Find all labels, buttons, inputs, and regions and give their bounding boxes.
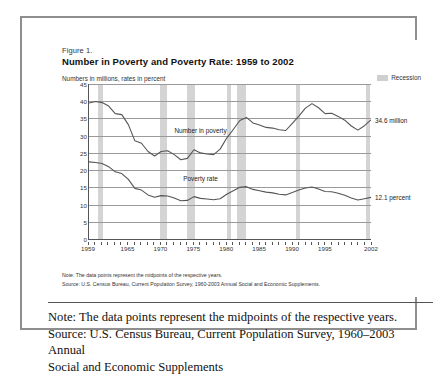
figure-number: Figure 1. (62, 46, 93, 55)
x-axis-tick-mark (285, 242, 286, 245)
x-axis-tick-mark (120, 242, 121, 245)
x-axis-tick-mark (107, 242, 108, 245)
x-axis-tick-mark (311, 242, 312, 245)
x-axis-tick-mark (173, 242, 174, 245)
page-caption: Note: The data points represent the midp… (48, 309, 430, 375)
recession-swatch-icon (377, 75, 388, 81)
legend-label-recession: Recession (391, 74, 421, 81)
x-axis-tick-mark (265, 242, 266, 245)
x-axis-tick-label: 1990 (285, 245, 299, 252)
y-axis-tick-label: 0 (84, 236, 87, 243)
end-value-label: 34.6 million (375, 116, 407, 123)
footnote-source: Source: U.S. Census Bureau, Current Popu… (62, 280, 417, 289)
x-axis-tick-mark (219, 242, 220, 245)
x-axis-tick-mark (331, 242, 332, 245)
x-axis-tick-mark (193, 242, 194, 245)
x-axis-tick-mark (259, 242, 260, 245)
x-axis-tick-mark (206, 242, 207, 245)
y-axis-tick-label: 10 (80, 201, 87, 208)
plot-wrapper: 051015202530354045Number in povertyPover… (62, 84, 419, 256)
axis-units-note: Numbers in millions, rates in percent (62, 75, 165, 82)
x-axis-tick-mark (357, 242, 358, 245)
chart-legend: Recession (377, 74, 421, 81)
x-axis-tick-mark (199, 242, 200, 245)
y-axis-tick-label: 15 (80, 184, 87, 191)
x-axis-tick-label: 1985 (252, 245, 266, 252)
x-axis-tick-mark (351, 242, 352, 245)
x-axis-tick-mark (94, 242, 95, 245)
x-axis-tick-mark (101, 242, 102, 245)
series-annotation-label: Poverty rate (183, 175, 217, 182)
x-axis-labels: 195919651970197519801985199019952002 (88, 242, 371, 256)
x-axis-tick-label: 1980 (219, 245, 233, 252)
x-axis-tick-mark (278, 242, 279, 245)
footnote-note: Note: The data points represent the midp… (62, 271, 417, 280)
figure-title: Number in Poverty and Poverty Rate: 1959… (62, 56, 294, 67)
x-axis-tick-mark (160, 242, 161, 245)
series-line-number-in-poverty (89, 102, 371, 160)
x-axis-tick-mark (232, 242, 233, 245)
x-axis-tick-mark (305, 242, 306, 245)
y-axis-tick-label: 5 (84, 218, 87, 225)
x-axis-tick-label: 1975 (186, 245, 200, 252)
x-axis-tick-label: 1959 (81, 245, 95, 252)
x-axis-tick-mark (134, 242, 135, 245)
x-axis-tick-mark (344, 242, 345, 245)
x-axis-tick-label: 1970 (154, 245, 168, 252)
x-axis-tick-mark (140, 242, 141, 245)
x-axis-tick-mark (324, 242, 325, 245)
x-axis-tick-mark (371, 242, 372, 245)
x-axis-tick-mark (245, 242, 246, 245)
x-axis-tick-label: 1995 (318, 245, 332, 252)
caption-line-source-cont: Social and Economic Supplements (48, 359, 430, 375)
x-axis-tick-mark (338, 242, 339, 245)
caption-line-note: Note: The data points represent the midp… (48, 309, 430, 326)
x-axis-tick-mark (180, 242, 181, 245)
x-axis-tick-mark (166, 242, 167, 245)
y-axis-tick-label: 30 (80, 132, 87, 139)
x-axis-tick-mark (239, 242, 240, 245)
end-value-label: 12.1 percent (375, 194, 411, 201)
y-axis-tick-label: 40 (80, 98, 87, 105)
x-axis-tick-mark (364, 242, 365, 245)
x-axis-tick-mark (318, 242, 319, 245)
x-axis-tick-mark (252, 242, 253, 245)
x-axis-tick-label: 1965 (121, 245, 135, 252)
figure-footnote: Note: The data points represent the midp… (62, 271, 417, 289)
y-axis-tick-label: 35 (80, 115, 87, 122)
figure-outer-frame: Figure 1. Number in Poverty and Poverty … (20, 16, 417, 330)
x-axis-tick-mark (88, 242, 89, 245)
x-axis-tick-mark (226, 242, 227, 245)
x-axis-tick-mark (213, 242, 214, 245)
x-axis-tick-mark (127, 242, 128, 245)
x-axis-tick-mark (186, 242, 187, 245)
y-axis-tick-label: 45 (80, 81, 87, 88)
x-axis-tick-mark (147, 242, 148, 245)
y-axis-tick-label: 20 (80, 167, 87, 174)
x-axis-tick-mark (298, 242, 299, 245)
series-lines (89, 84, 371, 239)
y-axis-tick-label: 25 (80, 149, 87, 156)
plot-inner (89, 84, 371, 239)
x-axis-tick-label: 2002 (364, 245, 378, 252)
caption-divider (48, 302, 433, 303)
x-axis-tick-mark (114, 242, 115, 245)
series-line-poverty-rate (89, 162, 371, 201)
x-axis-tick-mark (292, 242, 293, 245)
x-axis-tick-mark (272, 242, 273, 245)
x-axis-tick-mark (153, 242, 154, 245)
series-annotation-label: Number in poverty (174, 127, 226, 134)
caption-line-source: Source: U.S. Census Bureau, Current Popu… (48, 326, 430, 359)
figure-box: Figure 1. Number in Poverty and Poverty … (48, 40, 433, 297)
plot-area: 051015202530354045Number in povertyPover… (88, 84, 371, 240)
